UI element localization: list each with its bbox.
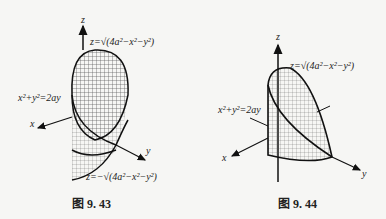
cylinder-label: x²+y²=2ay (18, 92, 61, 103)
upper-surface-label: z=√(4a²−x²−y²) (290, 60, 354, 71)
y-axis (332, 157, 360, 170)
y-axis (116, 145, 145, 160)
x-axis (38, 117, 72, 128)
lower-surface-label: z=−√(4a²−x²−y²) (86, 171, 157, 182)
y-axis-label: y (362, 168, 366, 179)
figure-caption: 图 9. 43 (72, 194, 111, 212)
diagram-canvas (0, 0, 386, 219)
y-axis-label: y (146, 145, 150, 156)
cylinder-label: x²+y²=2ay (218, 104, 261, 115)
x-axis (232, 138, 268, 156)
figure-caption: 图 9. 44 (278, 194, 317, 212)
figure-9-43 (38, 26, 145, 180)
x-axis-label: x (30, 118, 34, 129)
z-axis-label: z (276, 31, 280, 42)
x-axis-label: x (222, 152, 226, 163)
z-axis-label: z (81, 14, 85, 25)
upper-surface-label: z=√(4a²−x²−y²) (90, 36, 154, 47)
